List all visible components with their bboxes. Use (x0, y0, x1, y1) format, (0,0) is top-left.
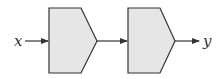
output-label: y (202, 32, 212, 50)
block-diagram: x y (0, 0, 221, 79)
input-label: x (14, 32, 23, 50)
block-1 (49, 8, 97, 73)
block-2 (128, 8, 175, 73)
